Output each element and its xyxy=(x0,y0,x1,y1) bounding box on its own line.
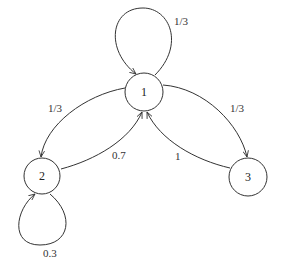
node-1: 1 xyxy=(125,73,163,111)
edge-label-1-to-3: 1/3 xyxy=(230,102,245,114)
node-3: 3 xyxy=(229,158,267,196)
edge-3-to-1 xyxy=(147,112,230,168)
node-3-label: 3 xyxy=(245,170,251,184)
node-1-label: 1 xyxy=(141,85,147,99)
edge-label-3-to-1: 1 xyxy=(175,150,181,162)
edge-label-2-to-2: 0.3 xyxy=(43,247,57,259)
edge-label-1-to-1: 1/3 xyxy=(174,15,189,27)
edge-1-to-3 xyxy=(163,85,247,157)
edge-2-to-2 xyxy=(19,194,66,245)
edge-label-1-to-2: 1/3 xyxy=(48,102,63,114)
edge-1-to-1 xyxy=(115,8,171,75)
markov-chain-diagram: 1/3 1/3 1/3 0.7 1 0.3 1 2 3 xyxy=(0,0,283,271)
edge-1-to-2 xyxy=(41,88,125,157)
edge-2-to-1 xyxy=(61,112,142,169)
node-2-label: 2 xyxy=(39,169,45,183)
edge-label-2-to-1: 0.7 xyxy=(112,149,126,161)
node-2: 2 xyxy=(24,158,60,194)
